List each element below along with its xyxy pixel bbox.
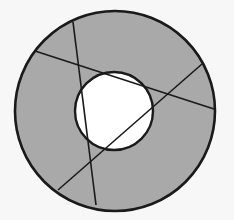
annulus-diagram	[0, 0, 234, 220]
